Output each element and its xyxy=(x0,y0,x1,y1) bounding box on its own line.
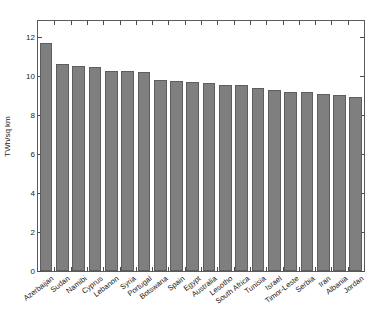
plot-frame: 024681012 xyxy=(37,20,365,272)
bar-series xyxy=(38,21,364,271)
bar xyxy=(154,80,167,271)
x-axis-tick-labels: AzerbaijanSudanNamibiCyprusLebanonSyriaP… xyxy=(37,274,365,328)
bar xyxy=(349,97,362,271)
bar xyxy=(89,67,102,271)
bar xyxy=(317,94,330,271)
bar xyxy=(252,88,265,271)
y-axis-title-text: TWh/sq km xyxy=(3,116,12,156)
bar xyxy=(105,71,118,271)
y-tick-label: 10 xyxy=(26,72,35,81)
bar-chart-figure: TWh/sq km 024681012 AzerbaijanSudanNamib… xyxy=(0,0,384,328)
y-tick-label: 12 xyxy=(26,33,35,42)
bar xyxy=(268,90,281,271)
bar xyxy=(121,71,134,271)
bar xyxy=(40,43,53,271)
y-tick-right-0 xyxy=(360,271,364,272)
plot-area: 024681012 xyxy=(38,21,364,271)
bar xyxy=(138,72,151,271)
bar xyxy=(170,81,183,271)
bar xyxy=(72,66,85,271)
bar xyxy=(186,82,199,271)
y-tick-label: 2 xyxy=(31,228,35,237)
bar xyxy=(235,85,248,271)
y-tick-0: 0 xyxy=(38,271,42,272)
bar xyxy=(333,95,346,271)
bar xyxy=(219,85,232,271)
bar xyxy=(284,92,297,271)
bar xyxy=(203,83,216,271)
y-tick-label: 4 xyxy=(31,189,35,198)
y-tick-label: 6 xyxy=(31,150,35,159)
bar xyxy=(301,92,314,271)
y-axis-title: TWh/sq km xyxy=(0,0,14,272)
y-tick-label: 0 xyxy=(31,267,35,276)
y-tick-label: 8 xyxy=(31,111,35,120)
bar xyxy=(56,64,69,271)
